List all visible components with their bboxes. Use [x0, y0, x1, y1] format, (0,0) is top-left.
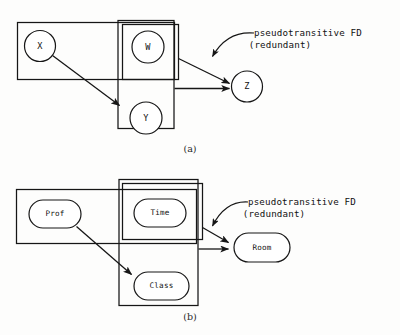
node-z-label: Z — [244, 81, 249, 91]
node-class-label: Class — [150, 281, 174, 290]
annotation-a-line2: (redundant) — [249, 39, 312, 50]
node-y: Y — [130, 102, 162, 134]
panel-b: Prof Time Class Room pseudotransitive FD… — [17, 180, 356, 323]
caption-a: (a) — [183, 143, 196, 154]
node-w-label: W — [145, 42, 151, 52]
node-w: W — [132, 31, 164, 63]
node-room-label: Room — [252, 243, 271, 252]
node-prof-label: Prof — [45, 209, 64, 218]
figure-page: X W Y Z pseudotransitive FD (redundant) … — [0, 0, 400, 335]
node-class: Class — [134, 272, 189, 300]
caption-b: (b) — [183, 311, 197, 322]
edge-x-to-y — [53, 56, 120, 106]
edge-time-to-room-redundant — [203, 228, 229, 243]
panel-a: X W Y Z pseudotransitive FD (redundant) … — [18, 21, 362, 155]
edge-prof-to-class — [77, 227, 132, 275]
node-x: X — [25, 31, 56, 62]
node-z: Z — [232, 71, 263, 102]
node-room: Room — [234, 233, 290, 262]
annotation-b-line2: (redundant) — [243, 208, 306, 219]
annotation-a-line1: pseudotransitive FD — [254, 27, 362, 38]
node-y-label: Y — [143, 113, 149, 123]
node-x-label: X — [37, 41, 43, 51]
node-prof: Prof — [29, 200, 81, 228]
figure-canvas: X W Y Z pseudotransitive FD (redundant) … — [0, 0, 400, 335]
annotation-b-line1: pseudotransitive FD — [248, 196, 356, 207]
edge-w-to-z-redundant — [179, 59, 230, 84]
node-time: Time — [134, 199, 186, 227]
node-time-label: Time — [150, 208, 169, 217]
